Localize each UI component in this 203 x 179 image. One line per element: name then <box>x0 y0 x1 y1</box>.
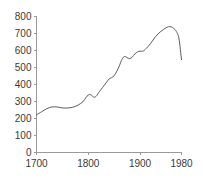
line-chart: 0100200300400500600700800 17001800190019… <box>0 0 203 179</box>
x-tick-label: 1700 <box>25 158 48 169</box>
y-tick-label: 300 <box>15 96 32 107</box>
y-tick-label: 600 <box>15 45 32 56</box>
y-tick-label: 500 <box>15 62 32 73</box>
x-tick-label: 1900 <box>129 158 152 169</box>
y-tick-label: 0 <box>26 147 32 158</box>
y-tick-label: 700 <box>15 28 32 39</box>
data-series-line <box>37 27 182 115</box>
y-tick-label: 100 <box>15 130 32 141</box>
y-tick-label: 200 <box>15 113 32 124</box>
y-axis-ticks: 0100200300400500600700800 <box>15 11 37 158</box>
y-tick-label: 400 <box>15 79 32 90</box>
y-tick-label: 800 <box>15 11 32 22</box>
x-axis-ticks: 1700180019001980 <box>25 153 193 169</box>
x-tick-label: 1980 <box>170 158 193 169</box>
x-tick-label: 1800 <box>77 158 100 169</box>
chart-canvas: 0100200300400500600700800 17001800190019… <box>0 0 203 179</box>
